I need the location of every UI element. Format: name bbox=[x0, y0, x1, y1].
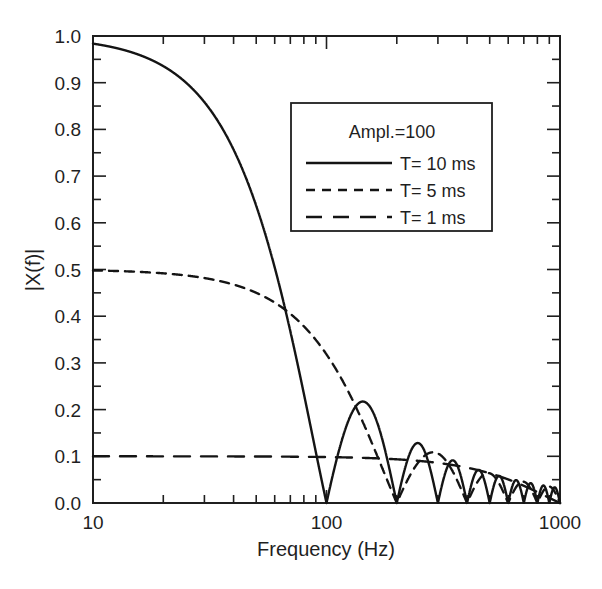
x-axis-title: Frequency (Hz) bbox=[257, 538, 395, 560]
y-axis-title: |X(f)| bbox=[22, 249, 44, 292]
x-axis-tick-labels: 101001000 bbox=[82, 512, 581, 533]
x-tick-label: 10 bbox=[82, 512, 103, 533]
y-tick-label: 0.7 bbox=[55, 166, 81, 187]
spectrum-plot: 101001000 0.00.10.20.30.40.50.60.70.80.9… bbox=[0, 0, 602, 589]
x-tick-label: 100 bbox=[311, 512, 343, 533]
chart-figure: 101001000 0.00.10.20.30.40.50.60.70.80.9… bbox=[0, 0, 602, 589]
y-tick-label: 1.0 bbox=[55, 26, 81, 47]
y-tick-label: 0.4 bbox=[55, 306, 82, 327]
y-tick-label: 0.1 bbox=[55, 446, 81, 467]
legend-label-3: T= 1 ms bbox=[400, 208, 466, 228]
y-tick-label: 0.3 bbox=[55, 353, 81, 374]
legend-label-1: T= 10 ms bbox=[400, 154, 476, 174]
y-tick-label: 0.6 bbox=[55, 213, 81, 234]
y-tick-label: 0.0 bbox=[55, 493, 81, 514]
legend: Ampl.=100 T= 10 msT= 5 msT= 1 ms bbox=[291, 103, 492, 231]
legend-label-2: T= 5 ms bbox=[400, 181, 466, 201]
x-tick-label: 1000 bbox=[539, 512, 581, 533]
y-tick-label: 0.2 bbox=[55, 400, 81, 421]
series-line-2 bbox=[93, 270, 560, 503]
y-tick-label: 0.5 bbox=[55, 260, 81, 281]
y-tick-label: 0.8 bbox=[55, 119, 81, 140]
y-tick-label: 0.9 bbox=[55, 73, 81, 94]
legend-annotation-label: Ampl.=100 bbox=[349, 122, 436, 142]
y-axis-tick-labels: 0.00.10.20.30.40.50.60.70.80.91.0 bbox=[55, 26, 82, 514]
